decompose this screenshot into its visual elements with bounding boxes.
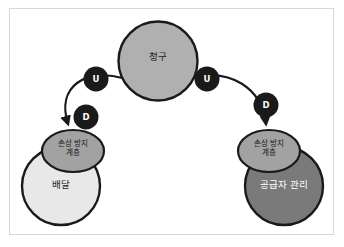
badge-u-right-icon[interactable]: [195, 67, 220, 92]
badge-d-left-icon[interactable]: [74, 105, 99, 130]
badge-d-right-icon[interactable]: [254, 93, 279, 118]
diagram-canvas: 청구 손상 방지 계층 배달 손상 방지 계층 공급자 관리 U U D D: [0, 0, 344, 247]
node-claim[interactable]: [119, 22, 198, 101]
badge-u-left-icon[interactable]: [84, 67, 109, 92]
diagram-graphic: [0, 0, 344, 247]
node-damage-prevention-layer-right[interactable]: [238, 130, 300, 172]
node-damage-prevention-layer-left[interactable]: [42, 130, 104, 172]
